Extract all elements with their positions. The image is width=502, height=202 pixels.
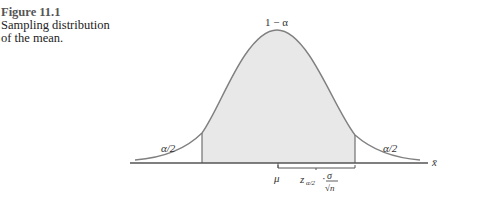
- z-subscript: α/2: [306, 179, 316, 187]
- sigma-numerator: σ: [327, 170, 333, 181]
- normal-distribution-diagram: 1 − α α/2 α/2 μ x̄ z α/2 · σ √n: [0, 0, 502, 202]
- right-tail-label: α/2: [383, 142, 398, 154]
- mean-label: μ: [273, 172, 280, 184]
- z-label: z: [299, 173, 305, 185]
- center-area-label: 1 − α: [265, 16, 288, 28]
- sqrt-n-denominator: √n: [325, 183, 335, 193]
- left-tail-label: α/2: [161, 142, 176, 154]
- axis-label: x̄: [431, 156, 437, 168]
- margin-bracket: [278, 165, 355, 170]
